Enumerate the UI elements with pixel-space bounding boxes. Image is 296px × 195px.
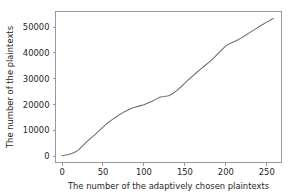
line-chart: 050100150200250 010000200003000040000500… <box>0 0 296 195</box>
x-tick-label: 100 <box>136 167 152 177</box>
y-tick-label: 40000 <box>23 48 50 58</box>
y-tick-label: 0 <box>44 151 49 161</box>
y-tick-label: 20000 <box>23 100 50 110</box>
x-tick-label: 0 <box>59 167 64 177</box>
chart-figure: 050100150200250 010000200003000040000500… <box>0 0 296 195</box>
y-axis-label: The number of the plaintexts <box>5 26 15 149</box>
x-tick-label: 250 <box>259 167 275 177</box>
x-tick-label: 150 <box>177 167 193 177</box>
x-axis-label: The number of the adaptively chosen plai… <box>67 181 269 191</box>
y-tick-label: 30000 <box>23 74 50 84</box>
x-tick-label: 50 <box>98 167 109 177</box>
x-tick-label: 200 <box>218 167 234 177</box>
y-tick-label: 50000 <box>23 22 50 32</box>
y-tick-label: 10000 <box>23 125 50 135</box>
